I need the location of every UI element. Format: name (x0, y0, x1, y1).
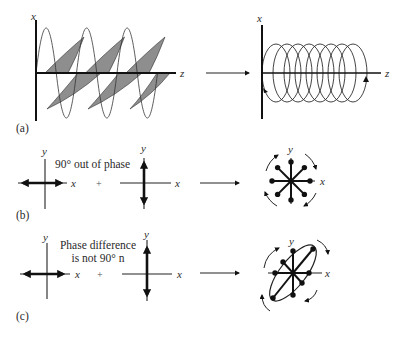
y-axis-label: y (140, 142, 146, 154)
panel-a-wave-diagram: x z (30, 10, 185, 121)
plus-sign: + (96, 178, 102, 189)
x-axis-label: x (30, 10, 36, 22)
x-axis-label: x (70, 177, 76, 189)
phase-annotation-line-2: is not 90° n (72, 252, 125, 264)
component-horizontal: y x (18, 145, 76, 209)
y-axis-label: y (287, 143, 293, 155)
polarization-figure: x z x z (a) (0, 0, 407, 337)
plus-sign: + (97, 269, 103, 280)
component-vertical: y x (120, 142, 180, 209)
panel-a-helix-diagram: x z (256, 12, 390, 119)
phase-annotation: 90° out of phase (55, 158, 130, 171)
elliptical-result: y x (262, 235, 330, 311)
panel-a: x z x z (a) (16, 10, 390, 135)
x-axis-label: x (74, 268, 80, 280)
x-axis-label: x (324, 267, 330, 279)
y-axis-label: y (41, 145, 47, 157)
y-axis-label: y (42, 231, 48, 243)
x-axis-label: x (174, 177, 180, 189)
phase-annotation-line-1: Phase difference (60, 239, 136, 251)
panel-label-a: (a) (16, 122, 29, 135)
panel-label-c: (c) (16, 310, 29, 323)
rotating-vectors (270, 246, 315, 300)
panel-label-b: (b) (16, 209, 30, 222)
y-axis-label: y (288, 235, 294, 247)
panel-b: y x + 90° out of phase y x (16, 142, 325, 222)
x-axis-label: x (176, 268, 182, 280)
z-axis-label: z (179, 67, 185, 79)
rotating-vectors (269, 159, 312, 202)
rotation-arrow-icon (363, 76, 369, 82)
panel-c: y x + Phase difference is not 90° n y x (16, 228, 330, 323)
z-axis-label: z (384, 67, 390, 79)
x-axis-label: x (319, 175, 325, 187)
y-axis-label: y (143, 228, 149, 240)
circular-result: y x (265, 143, 325, 206)
x-axis-label: x (256, 12, 262, 24)
rotation-arrow-icon (263, 88, 268, 93)
